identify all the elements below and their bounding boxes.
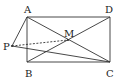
point-label-m: M [64,28,74,39]
point-dot-m [67,39,69,41]
point-label-d: D [105,4,113,15]
point-label-b: B [25,68,32,79]
point-label-p: P [3,41,10,52]
point-labels: ADBCMP [3,4,114,79]
segment-pm [12,40,68,46]
point-label-a: A [23,4,32,15]
point-label-c: C [106,68,114,79]
point-dot-p [11,45,13,47]
segment-pa [12,17,27,46]
geometry-diagram: ADBCMP [0,0,121,84]
segments [12,17,110,62]
